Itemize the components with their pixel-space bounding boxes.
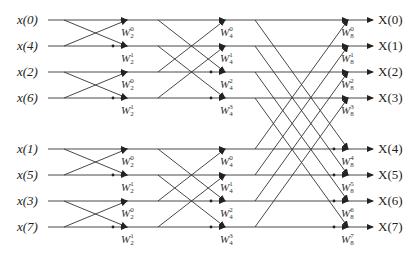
butterfly-graph [0, 0, 418, 262]
twiddle-factor-label: W24 [220, 78, 233, 92]
twiddle-factor-label: W12 [121, 181, 134, 195]
node-dot [333, 200, 336, 203]
input-label: x(1) [17, 142, 38, 155]
twiddle-factor-label: W02 [121, 78, 134, 92]
node-dot [210, 226, 213, 229]
output-label: X(5) [378, 168, 403, 181]
twiddle-factor-label: W48 [341, 155, 354, 169]
twiddle-factor-label: W38 [341, 104, 354, 118]
twiddle-factor-label: W34 [220, 233, 233, 247]
input-label: x(7) [17, 220, 38, 233]
twiddle-factor-label: W08 [341, 26, 354, 40]
node-dot [112, 226, 115, 229]
input-label: x(4) [17, 39, 38, 52]
twiddle-factor-label: W78 [341, 233, 354, 247]
twiddle-factor-label: W12 [121, 52, 134, 66]
output-label: X(4) [378, 142, 403, 155]
input-label: x(2) [17, 65, 38, 78]
twiddle-factor-label: W28 [341, 78, 354, 92]
input-label: x(3) [17, 194, 38, 207]
output-label: X(1) [378, 39, 403, 52]
input-label: x(0) [17, 13, 38, 26]
input-label: x(5) [17, 168, 38, 181]
twiddle-factor-label: W02 [121, 207, 134, 221]
twiddle-factor-label: W14 [220, 52, 233, 66]
node-dot [112, 45, 115, 48]
twiddle-factor-label: W68 [341, 207, 354, 221]
output-label: X(7) [378, 220, 403, 233]
twiddle-factor-label: W02 [121, 26, 134, 40]
output-label: X(0) [378, 13, 403, 26]
node-dot [210, 71, 213, 74]
input-label: x(6) [17, 91, 38, 104]
node-dot [333, 174, 336, 177]
output-label: X(6) [378, 194, 403, 207]
twiddle-factor-label: W18 [341, 52, 354, 66]
twiddle-factor-label: W14 [220, 181, 233, 195]
twiddle-factor-label: W24 [220, 207, 233, 221]
fft-butterfly-diagram: x(0)x(4)x(2)x(6)x(1)x(5)x(3)x(7)X(0)X(1)… [0, 0, 418, 262]
node-dot [210, 200, 213, 203]
output-label: X(2) [378, 65, 403, 78]
twiddle-factor-label: W04 [220, 155, 233, 169]
twiddle-factor-label: W34 [220, 104, 233, 118]
twiddle-factor-label: W12 [121, 104, 134, 118]
twiddle-factor-label: W04 [220, 26, 233, 40]
node-dot [112, 174, 115, 177]
twiddle-factor-label: W12 [121, 233, 134, 247]
twiddle-factor-label: W58 [341, 181, 354, 195]
twiddle-factor-label: W02 [121, 155, 134, 169]
node-dot [333, 226, 336, 229]
output-label: X(3) [378, 91, 403, 104]
node-dot [333, 148, 336, 151]
node-dot [112, 97, 115, 100]
node-dot [210, 97, 213, 100]
